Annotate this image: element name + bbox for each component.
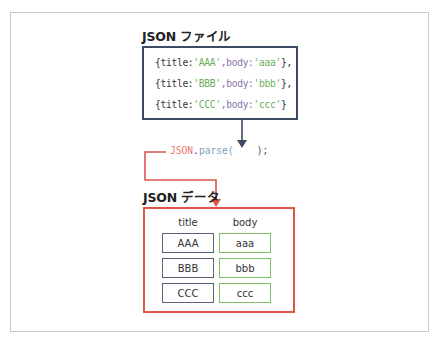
body-cell: bbb	[219, 258, 271, 278]
json-data-heading: JSON データ	[143, 187, 220, 206]
parse-object: JSON	[170, 145, 193, 156]
parse-method: parse(	[199, 145, 234, 156]
column-header-title: title	[162, 217, 214, 228]
parse-close: );	[234, 145, 269, 156]
parse-call: JSON.parse( );	[170, 145, 268, 156]
title-cell: AAA	[162, 233, 214, 253]
title-cell: BBB	[162, 258, 214, 278]
body-cell: ccc	[219, 283, 271, 303]
column-header-body: body	[219, 217, 271, 228]
body-cell: aaa	[219, 233, 271, 253]
title-cell: CCC	[162, 283, 214, 303]
json-data-box: title body AAA aaa BBB bbb CCC ccc	[143, 207, 295, 313]
